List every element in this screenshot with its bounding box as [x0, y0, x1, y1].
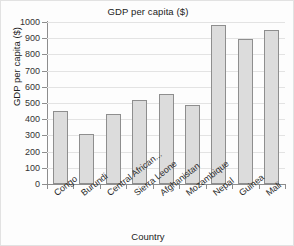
y-tick-mark — [42, 54, 47, 55]
y-tick-label: 900 — [0, 34, 40, 43]
y-tick-mark — [42, 135, 47, 136]
y-tick-label: 100 — [0, 164, 40, 173]
x-axis-title: Country — [1, 231, 294, 242]
bar — [79, 134, 94, 184]
y-tick-label: 300 — [0, 131, 40, 140]
gdp-per-capita-bar-chart: GDP per capita ($) GDP per capita ($) 01… — [0, 0, 294, 246]
bar — [264, 30, 279, 184]
y-tick-mark — [42, 87, 47, 88]
y-tick-mark — [42, 38, 47, 39]
y-tick-mark — [42, 168, 47, 169]
y-tick-label: 800 — [0, 50, 40, 59]
y-tick-label: 400 — [0, 115, 40, 124]
y-tick-mark — [42, 103, 47, 104]
y-tick-label: 700 — [0, 67, 40, 76]
bar — [238, 39, 253, 184]
y-tick-mark — [42, 22, 47, 23]
y-tick-mark — [42, 152, 47, 153]
chart-title: GDP per capita ($) — [1, 6, 294, 17]
bar — [106, 114, 121, 184]
y-tick-mark — [42, 119, 47, 120]
y-tick-mark — [42, 71, 47, 72]
y-tick-label: 1000 — [0, 18, 40, 27]
y-tick-label: 500 — [0, 99, 40, 108]
gridline — [47, 22, 285, 23]
y-tick-label: 0 — [0, 180, 40, 189]
bar — [53, 111, 68, 184]
x-tick-mark — [285, 184, 286, 189]
y-tick-label: 200 — [0, 148, 40, 157]
y-tick-label: 600 — [0, 83, 40, 92]
y-tick-mark — [42, 184, 47, 185]
plot-area — [47, 22, 285, 184]
y-axis-tick-labels: 01002003004005006007008009001000 — [1, 1, 40, 246]
x-tick-mark — [47, 184, 48, 189]
